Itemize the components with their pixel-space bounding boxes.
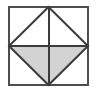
geometry-figure bbox=[0, 0, 99, 93]
geometry-canvas bbox=[0, 0, 99, 93]
